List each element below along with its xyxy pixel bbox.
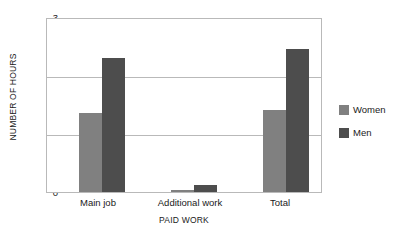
y-axis-title-text: NUMBER OF HOURS <box>8 53 18 140</box>
plot-area <box>46 18 322 193</box>
y-axis-title: NUMBER OF HOURS <box>0 0 26 193</box>
bar-men-additional-work[interactable] <box>194 185 217 192</box>
bar-women-additional-work[interactable] <box>171 190 194 192</box>
legend-swatch-women-icon <box>339 105 349 115</box>
legend-label-women: Women <box>353 105 386 115</box>
chart-legend: Women Men <box>339 105 405 151</box>
bar-chart-figure: NUMBER OF HOURS 3 2 1 0 Main job Additio… <box>0 0 407 245</box>
legend-swatch-men-icon <box>339 128 349 138</box>
legend-label-men: Men <box>353 128 371 138</box>
bar-women-main-job[interactable] <box>79 113 102 192</box>
x-axis-title: PAID WORK <box>46 215 322 225</box>
legend-entry-men[interactable]: Men <box>339 128 405 138</box>
bar-men-total[interactable] <box>286 49 309 192</box>
x-tick-label-additional-work: Additional work <box>140 198 240 208</box>
legend-entry-women[interactable]: Women <box>339 105 405 115</box>
bar-women-total[interactable] <box>263 110 286 192</box>
x-tick-label-total: Total <box>240 198 320 208</box>
x-tick-label-main-job: Main job <box>58 198 138 208</box>
bars-layer <box>47 19 321 192</box>
bar-men-main-job[interactable] <box>102 58 125 192</box>
